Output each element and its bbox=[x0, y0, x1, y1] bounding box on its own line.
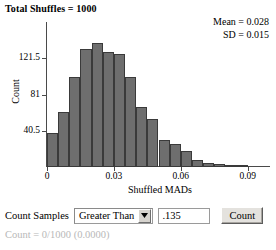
histogram-bar bbox=[237, 165, 248, 167]
count-button[interactable]: Count bbox=[221, 207, 263, 224]
y-axis-title: Count bbox=[10, 62, 21, 122]
x-axis-title: Shuffled MADs bbox=[0, 184, 276, 195]
count-samples-label: Count Samples bbox=[5, 210, 69, 221]
histogram-bars bbox=[47, 22, 270, 167]
histogram-bar bbox=[192, 160, 203, 167]
chevron-down-icon[interactable] bbox=[138, 209, 151, 223]
count-controls: Count Samples Greater Than .135 Count bbox=[5, 207, 263, 224]
histogram-bar bbox=[136, 107, 147, 167]
histogram-bar bbox=[103, 52, 114, 167]
threshold-input[interactable]: .135 bbox=[158, 208, 210, 224]
histogram-bar bbox=[147, 119, 158, 167]
x-tick-label: 0 bbox=[45, 171, 50, 181]
x-tick-label: 0.03 bbox=[106, 171, 123, 181]
histogram-bar bbox=[181, 151, 192, 167]
histogram-bar bbox=[58, 112, 69, 167]
histogram-bar bbox=[80, 49, 91, 167]
histogram-bar bbox=[170, 144, 181, 167]
histogram-chart: 40.581121.5 00.030.060.09 Count Shuffled… bbox=[0, 0, 276, 200]
comparison-select[interactable]: Greater Than bbox=[74, 208, 153, 224]
x-tick-label: 0.09 bbox=[239, 171, 256, 181]
y-tick-label: 40.5 bbox=[0, 125, 40, 135]
sampling-distribution-panel: Total Shuffles = 1000 Mean = 0.028 SD = … bbox=[0, 0, 276, 250]
comparison-select-value: Greater Than bbox=[75, 209, 138, 223]
histogram-bar bbox=[114, 54, 125, 167]
histogram-bar bbox=[214, 164, 225, 167]
histogram-bar bbox=[125, 77, 136, 167]
histogram-bar bbox=[225, 165, 236, 167]
histogram-bar bbox=[203, 163, 214, 167]
histogram-bar bbox=[159, 140, 170, 167]
histogram-bar bbox=[69, 77, 80, 167]
count-result-status: Count = 0/1000 (0.0000) bbox=[5, 229, 110, 240]
histogram-bar bbox=[92, 43, 103, 167]
x-tick-label: 0.06 bbox=[172, 171, 189, 181]
histogram-bar bbox=[47, 133, 58, 167]
